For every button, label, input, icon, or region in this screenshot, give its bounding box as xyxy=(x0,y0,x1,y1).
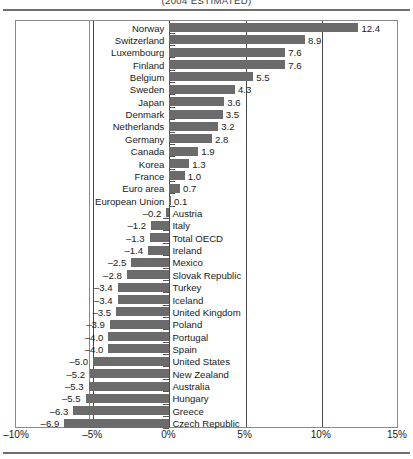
bar xyxy=(169,122,218,131)
bar-row: France1.0 xyxy=(16,169,397,181)
bar-row: Norway12.4 xyxy=(16,21,397,33)
bar-row: Euro area0.7 xyxy=(16,182,397,194)
bar-row: United Kingdom–3.5 xyxy=(16,305,397,317)
category-label: Finland xyxy=(133,60,164,71)
title-divider-rule xyxy=(3,9,410,11)
value-label: 0.1 xyxy=(174,196,187,207)
bar xyxy=(169,196,171,205)
bar-row: Hungary–5.5 xyxy=(16,392,397,404)
bar-row: Australia–5.3 xyxy=(16,380,397,392)
value-label: –4.0 xyxy=(85,332,104,343)
bar xyxy=(169,72,253,81)
category-label: New Zealand xyxy=(172,369,229,380)
chart-plot-area: Norway12.4Switzerland8.9Luxembourg7.6Fin… xyxy=(15,20,398,428)
category-label: Denmark xyxy=(125,109,164,120)
bar-row: Poland–3.9 xyxy=(16,318,397,330)
category-label: Japan xyxy=(138,97,164,108)
value-label: –1.3 xyxy=(126,233,145,244)
x-axis-tick-label: –5% xyxy=(82,429,102,440)
bar-row: Netherlands3.2 xyxy=(16,120,397,132)
category-label: Canada xyxy=(131,146,165,157)
bar-row: Portugal–4.0 xyxy=(16,330,397,342)
value-label: –3.4 xyxy=(94,282,113,293)
value-label: 3.6 xyxy=(227,97,240,108)
value-label: 8.9 xyxy=(308,35,321,46)
bar xyxy=(116,307,169,316)
category-label: Turkey xyxy=(172,282,201,293)
bar xyxy=(169,171,184,180)
bar-row: Spain–4.0 xyxy=(16,342,397,354)
value-label: –3.4 xyxy=(94,295,113,306)
category-label: European Union xyxy=(95,196,164,207)
value-label: –1.2 xyxy=(127,220,146,231)
bar xyxy=(108,344,169,353)
category-label: United Kingdom xyxy=(172,307,240,318)
bar xyxy=(64,419,169,428)
x-axis-tick-label: 5% xyxy=(237,429,251,440)
category-label: Portugal xyxy=(172,332,208,343)
bar xyxy=(169,147,198,156)
category-label: Norway xyxy=(132,23,165,34)
bar xyxy=(169,23,358,32)
x-axis-tick-label: 0% xyxy=(161,429,175,440)
bar xyxy=(118,295,170,304)
value-label: –6.3 xyxy=(50,406,69,417)
bar xyxy=(169,85,235,94)
bar xyxy=(89,382,170,391)
value-label: 0.7 xyxy=(183,183,196,194)
value-label: 5.5 xyxy=(256,72,269,83)
category-label: Germany xyxy=(125,134,164,145)
bar xyxy=(118,283,170,292)
value-label: 1.3 xyxy=(192,159,205,170)
category-label: Euro area xyxy=(122,183,164,194)
x-axis-tick-label: –10% xyxy=(3,429,29,440)
bar xyxy=(150,233,170,242)
bar xyxy=(86,394,170,403)
category-label: Poland xyxy=(172,319,202,330)
bar xyxy=(169,184,180,193)
bar-row: Denmark3.5 xyxy=(16,108,397,120)
value-label: –5.2 xyxy=(66,369,85,380)
bar xyxy=(169,60,285,69)
bar-row: Luxembourg7.6 xyxy=(16,46,397,58)
bar-row: Iceland–3.4 xyxy=(16,293,397,305)
category-label: Ireland xyxy=(172,245,201,256)
bar-row: Japan3.6 xyxy=(16,95,397,107)
category-label: United States xyxy=(172,356,230,367)
value-label: –4.0 xyxy=(85,344,104,355)
value-label: –3.9 xyxy=(86,319,105,330)
value-label: 3.2 xyxy=(221,121,234,132)
category-label: Switzerland xyxy=(115,35,165,46)
bar-row: Ireland–1.4 xyxy=(16,244,397,256)
bar-row: European Union0.1 xyxy=(16,194,397,206)
bottom-divider-rule xyxy=(3,452,410,454)
bar-row: Korea1.3 xyxy=(16,157,397,169)
value-label: –3.5 xyxy=(92,307,111,318)
bar xyxy=(169,134,212,143)
value-label: 12.4 xyxy=(361,23,380,34)
category-label: Iceland xyxy=(172,295,203,306)
bar xyxy=(131,258,169,267)
bar-rows-group: Norway12.4Switzerland8.9Luxembourg7.6Fin… xyxy=(16,21,397,427)
bar-row: Czech Republic–6.9 xyxy=(16,417,397,429)
bar xyxy=(169,97,224,106)
bar xyxy=(151,221,169,230)
category-label: Austria xyxy=(172,208,202,219)
bar xyxy=(90,369,169,378)
bar-row: Sweden4.3 xyxy=(16,83,397,95)
bar-row: Switzerland8.9 xyxy=(16,33,397,45)
category-label: Spain xyxy=(172,344,197,355)
bar-row: Belgium5.5 xyxy=(16,70,397,82)
bar-row: Slovak Republic–2.8 xyxy=(16,268,397,280)
bar-row: New Zealand–5.2 xyxy=(16,367,397,379)
value-label: –2.5 xyxy=(108,257,127,268)
x-axis-tick-label: 15% xyxy=(387,429,407,440)
bar xyxy=(108,332,169,341)
bar-row: Mexico–2.5 xyxy=(16,256,397,268)
category-label: Korea xyxy=(139,159,165,170)
category-label: Australia xyxy=(172,381,209,392)
bar xyxy=(166,208,169,217)
value-label: 7.6 xyxy=(288,47,301,58)
value-label: –1.4 xyxy=(124,245,143,256)
bar xyxy=(169,110,222,119)
